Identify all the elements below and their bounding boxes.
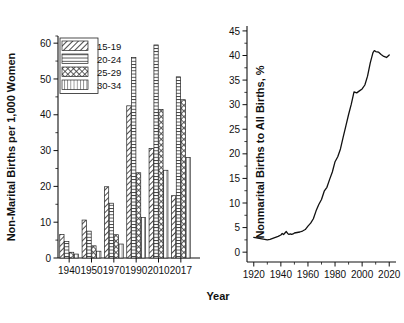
- legend-swatch-30-34: [62, 80, 88, 90]
- y-tick-label: 20: [229, 148, 241, 159]
- chart-svg: 0102030405060194019501970199020102017Non…: [0, 0, 404, 323]
- y-axis-label-right: Nonmarital Births to All Births, %: [254, 65, 266, 238]
- y-tick-label: 30: [229, 99, 241, 110]
- y-tick-label: 15: [229, 173, 241, 184]
- x-tick-label: 2010: [147, 265, 170, 276]
- y-tick-label: 40: [229, 50, 241, 61]
- bar-20-24-2017: [176, 77, 180, 258]
- legend-label-20-24: 20-24: [97, 54, 121, 65]
- legend-swatch-20-24: [62, 54, 88, 64]
- y-axis-label-left: Non-Marital Births per 1,000 Women: [5, 52, 17, 241]
- x-tick-label: 1980: [324, 269, 347, 280]
- bar-15-19-1970: [104, 187, 108, 258]
- legend-label-15-19: 15-19: [97, 41, 121, 52]
- legend-label-25-29: 25-29: [97, 67, 121, 78]
- bar-30-34-1990: [141, 218, 145, 258]
- bar-30-34-1950: [97, 251, 101, 258]
- y-tick-label: 5: [234, 222, 240, 233]
- x-tick-label: 1920: [243, 269, 266, 280]
- y-tick-label: 10: [40, 217, 52, 228]
- x-tick-label: 1990: [125, 265, 148, 276]
- x-tick-label: 1970: [103, 265, 126, 276]
- y-tick-label: 50: [40, 74, 52, 85]
- x-tick-label: 1960: [297, 269, 320, 280]
- x-tick-label: 2017: [170, 265, 193, 276]
- bar-15-19-1940: [60, 234, 64, 258]
- nonmarital-share-line: [254, 51, 389, 240]
- y-tick-label: 20: [40, 181, 52, 192]
- bar-20-24-1940: [65, 242, 69, 258]
- y-tick-label: 30: [40, 145, 52, 156]
- y-tick-label: 35: [229, 75, 241, 86]
- y-tick-label: 0: [234, 247, 240, 258]
- y-tick-label: 40: [40, 109, 52, 120]
- bar-20-24-1990: [132, 57, 136, 258]
- legend-swatch-15-19: [62, 41, 88, 51]
- y-tick-label: 10: [229, 198, 241, 209]
- legend-label-30-34: 30-34: [97, 80, 121, 91]
- bar-30-34-2010: [164, 170, 168, 258]
- bar-25-29-1970: [114, 235, 118, 258]
- bar-30-34-2017: [186, 157, 190, 258]
- x-tick-label: 1940: [270, 269, 293, 280]
- y-tick-label: 60: [40, 38, 52, 49]
- x-axis-label-shared: Year: [206, 290, 230, 302]
- bar-30-34-1970: [119, 244, 123, 258]
- bar-20-24-1970: [109, 203, 113, 258]
- line-chart-panel: 0510152025303540451920194019601980200020…: [229, 26, 401, 280]
- bar-25-29-1990: [136, 173, 140, 258]
- bar-25-29-2017: [181, 100, 185, 258]
- legend-swatch-25-29: [62, 67, 88, 77]
- y-tick-label: 45: [229, 26, 241, 37]
- bar-15-19-1950: [82, 220, 86, 258]
- bar-20-24-1950: [87, 231, 91, 258]
- bar-25-29-1940: [69, 252, 73, 258]
- x-tick-label: 2000: [351, 269, 374, 280]
- figure-container: 0102030405060194019501970199020102017Non…: [0, 0, 404, 323]
- x-tick-label: 1940: [58, 265, 81, 276]
- bar-25-29-2010: [159, 109, 163, 258]
- x-tick-label: 2020: [378, 269, 401, 280]
- y-tick-label: 0: [45, 253, 51, 264]
- bar-15-19-1990: [127, 106, 131, 258]
- bar-15-19-2017: [171, 196, 175, 258]
- bar-20-24-2010: [154, 45, 158, 258]
- y-tick-label: 25: [229, 124, 241, 135]
- x-tick-label: 1950: [80, 265, 103, 276]
- bar-25-29-1950: [92, 246, 96, 258]
- bar-30-34-1940: [74, 254, 78, 258]
- shared-x-axis-label: Year: [206, 290, 230, 302]
- bar-chart-panel: 0102030405060194019501970199020102017Non…: [5, 36, 200, 276]
- bar-15-19-2010: [149, 148, 153, 258]
